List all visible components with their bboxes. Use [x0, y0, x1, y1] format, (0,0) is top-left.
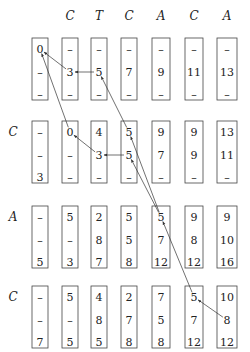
cell-value: 5 [96, 336, 103, 349]
cell-value: – [191, 171, 197, 184]
cell-value: 16 [220, 256, 234, 269]
cell-r3-c1: 5–5 [62, 286, 78, 349]
cell-value: 12 [187, 336, 201, 349]
row-label-3: C [8, 290, 17, 304]
cell-value: 3 [37, 171, 44, 184]
cell-r1-c6: 1311– [217, 121, 237, 184]
cell-value: 8 [96, 314, 103, 327]
column-header-5: C [189, 9, 198, 23]
cell-value: – [37, 234, 43, 247]
cell-value: 5 [191, 291, 198, 304]
traceback-arrow [101, 76, 127, 127]
cell-value: 5 [126, 126, 133, 139]
cell-value: 13 [220, 66, 234, 79]
cell-value: – [224, 171, 230, 184]
cell-r2-c5: 9812 [185, 206, 203, 269]
column-header-3: C [124, 9, 133, 23]
cell-r0-c2: –5– [91, 38, 107, 101]
traceback-arrow [44, 52, 66, 69]
cell-r0-c3: –7– [121, 38, 137, 101]
cell-r1-c4: 97– [152, 121, 170, 184]
cell-value: 7 [158, 234, 165, 247]
cell-r3-c5: 5712 [185, 286, 203, 349]
cell-value: 5 [126, 211, 133, 224]
cell-r3-c6: 10812 [217, 286, 237, 349]
cell-value: – [37, 149, 43, 162]
cell-value: – [67, 43, 73, 56]
cell-value: 5 [37, 256, 44, 269]
cell-value: 7 [126, 314, 133, 327]
cell-value: – [191, 43, 197, 56]
cell-r0-c6: –13– [217, 38, 237, 101]
cell-value: 8 [224, 314, 231, 327]
cell-value: – [224, 43, 230, 56]
cell-value: 3 [96, 149, 103, 162]
cell-value: 9 [191, 149, 198, 162]
cell-r0-c4: –9– [152, 38, 170, 101]
cell-value: – [67, 314, 73, 327]
cell-value: 3 [67, 66, 74, 79]
cell-value: – [126, 43, 132, 56]
cell-value: 11 [220, 149, 234, 162]
cell-value: 3 [67, 256, 74, 269]
cell-value: 5 [67, 336, 74, 349]
cell-value: 7 [96, 256, 103, 269]
cell-value: 0 [67, 126, 74, 139]
cell-value: – [37, 126, 43, 139]
traceback-arrow [131, 137, 159, 213]
cell-value: 7 [37, 336, 44, 349]
cell-value: 2 [126, 291, 133, 304]
cell-value: 11 [187, 66, 201, 79]
cell-r1-c2: 43– [91, 121, 107, 184]
cell-value: – [96, 88, 102, 101]
cell-value: 12 [220, 336, 234, 349]
column-header-2: T [95, 9, 104, 23]
traceback-arrow [74, 135, 95, 152]
cell-r1-c0: ––3 [32, 121, 48, 184]
cell-r1-c3: 55– [121, 121, 137, 184]
cell-r3-c4: 758 [152, 286, 170, 349]
cell-value: – [67, 88, 73, 101]
cell-value: 2 [96, 211, 103, 224]
cell-r0-c1: –3– [62, 38, 78, 101]
cell-r2-c0: ––5 [32, 206, 48, 269]
cell-r2-c2: 287 [91, 206, 107, 269]
traceback-arrow [131, 159, 158, 212]
cell-value: 9 [158, 126, 165, 139]
column-header-6: A [222, 9, 232, 23]
cell-value: 8 [191, 234, 198, 247]
cell-value: 9 [158, 66, 165, 79]
cell-value: 9 [191, 211, 198, 224]
cell-value: – [37, 291, 43, 304]
column-header-4: A [156, 9, 166, 23]
cell-r1-c5: 99– [185, 121, 203, 184]
cell-value: 5 [158, 314, 165, 327]
cell-r3-c0: ––7 [32, 286, 48, 349]
cell-value: 7 [126, 66, 133, 79]
cell-r2-c4: 5712 [152, 206, 170, 269]
cell-r0-c0: 0–– [32, 38, 48, 101]
cell-value: – [67, 234, 73, 247]
cell-value: – [96, 43, 102, 56]
cell-value: 5 [67, 211, 74, 224]
cell-value: 4 [96, 291, 103, 304]
cell-value: – [126, 171, 132, 184]
row-label-2: A [8, 210, 18, 224]
cell-value: – [37, 211, 43, 224]
cell-value: 13 [220, 126, 234, 139]
alignment-grid-diagram: CTCACA CAC 0–––3––5––7––9––11––13–––30––… [0, 0, 250, 352]
cell-value: – [191, 88, 197, 101]
cell-value: 12 [154, 256, 168, 269]
cell-value: – [37, 66, 43, 79]
cell-r3-c2: 485 [91, 286, 107, 349]
cell-value: 10 [220, 291, 234, 304]
cell-value: 10 [220, 234, 234, 247]
cell-value: 12 [187, 256, 201, 269]
cell-value: 9 [191, 126, 198, 139]
cell-r0-c5: –11– [185, 38, 203, 101]
cell-value: – [67, 149, 73, 162]
cell-value: – [224, 88, 230, 101]
cell-value: – [67, 171, 73, 184]
row-label-1: C [8, 125, 17, 139]
cell-value: 8 [126, 336, 133, 349]
